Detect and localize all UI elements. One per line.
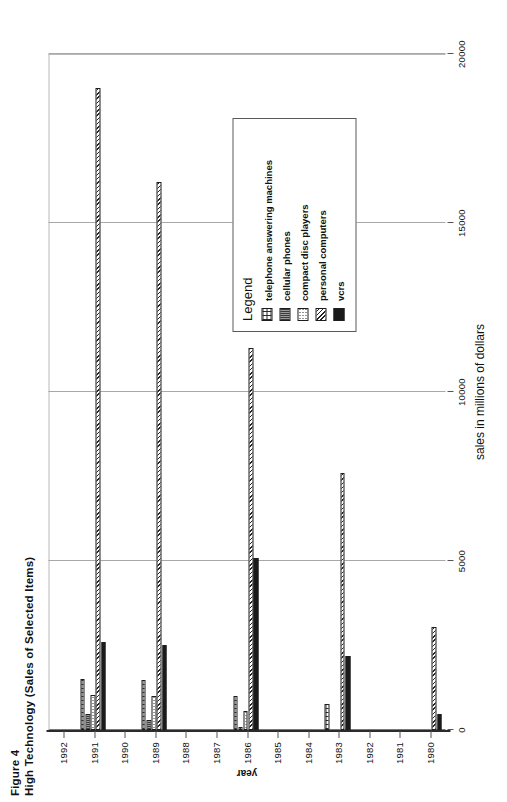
bar <box>90 695 95 730</box>
category-axis-tick <box>94 731 95 738</box>
bar <box>141 680 146 730</box>
value-axis-title: sales in millions of dollars <box>472 324 486 460</box>
bar <box>243 711 248 730</box>
category-axis-tick <box>369 731 370 738</box>
value-axis-tick <box>447 560 453 561</box>
category-axis-tick <box>430 731 431 738</box>
value-axis-tick-label: 10000 <box>455 378 466 406</box>
category-axis-tick-label: 1991 <box>88 742 99 788</box>
bar <box>101 642 106 730</box>
bar <box>85 714 90 730</box>
category-axis-tick <box>277 731 278 738</box>
legend-label: telephone answering machines <box>262 160 273 301</box>
figure-title-block: Figure 4 High Technology (Sales of Selec… <box>8 557 35 796</box>
category-axis-tick-label: 1985 <box>271 742 282 788</box>
legend-label: compact disc players <box>298 204 309 301</box>
category-axis-tick-label: 1986 <box>241 742 252 788</box>
gridline <box>48 391 445 392</box>
category-axis-line <box>46 730 450 732</box>
category-axis-tick-label: 1984 <box>302 742 313 788</box>
figure-title: High Technology (Sales of Selected Items… <box>21 557 35 796</box>
category-axis-tick-label: 1983 <box>332 742 343 788</box>
bar <box>95 88 100 730</box>
value-axis-tick <box>447 729 453 730</box>
category-axis-tick <box>399 731 400 738</box>
category-axis-tick <box>185 731 186 738</box>
legend-swatch <box>333 308 344 321</box>
value-axis-tick-label: 0 <box>455 727 466 733</box>
value-axis-tick-label: 15000 <box>455 209 466 237</box>
legend-swatch <box>315 308 326 321</box>
bar <box>324 704 329 730</box>
category-axis-tick <box>155 731 156 738</box>
legend-swatch <box>297 308 308 321</box>
legend-label: cellular phones <box>280 231 291 301</box>
bar <box>162 646 167 731</box>
category-axis-tick <box>216 731 217 738</box>
bar <box>80 679 85 730</box>
legend-title: Legend <box>239 278 254 321</box>
legend-swatch <box>261 308 272 321</box>
bar <box>151 696 156 730</box>
value-axis-tick-label: 5000 <box>455 550 466 572</box>
bar <box>233 696 238 730</box>
bar <box>253 558 258 730</box>
gridline <box>48 53 445 54</box>
category-axis-tick <box>338 731 339 738</box>
value-axis-tick <box>447 222 453 223</box>
bar <box>156 182 161 730</box>
category-axis-tick-label: 1981 <box>393 742 404 788</box>
category-axis-tick <box>247 731 248 738</box>
bar <box>431 627 436 730</box>
category-axis-tick <box>308 731 309 738</box>
category-axis-tick <box>124 731 125 738</box>
category-axis-tick-label: 1982 <box>363 742 374 788</box>
legend-label: personal computers <box>316 210 327 301</box>
category-axis-tick-label: 1988 <box>179 742 190 788</box>
value-axis-tick <box>447 53 453 54</box>
legend-label: vcrs <box>334 281 345 301</box>
legend-box: Legendtelephone answering machinescellul… <box>232 118 356 332</box>
bar <box>248 348 253 730</box>
bar <box>345 656 350 730</box>
figure-canvas: Figure 4 High Technology (Sales of Selec… <box>0 0 507 802</box>
category-axis-title: year <box>236 768 257 779</box>
bar <box>146 720 151 730</box>
category-axis-tick-label: 1989 <box>149 742 160 788</box>
bar <box>340 473 345 730</box>
gridline <box>48 560 445 561</box>
category-axis-tick <box>63 731 64 738</box>
value-axis-tick-label: 20000 <box>455 40 466 68</box>
bar <box>437 714 442 730</box>
legend-swatch <box>279 308 290 321</box>
category-axis-tick-label: 1980 <box>424 742 435 788</box>
category-axis-tick-label: 1990 <box>118 742 129 788</box>
bar <box>238 727 243 730</box>
figure-number: Figure 4 <box>8 557 21 796</box>
category-axis-tick-label: 1992 <box>57 742 68 788</box>
category-axis-tick-label: 1987 <box>210 742 221 788</box>
value-axis-tick <box>447 391 453 392</box>
